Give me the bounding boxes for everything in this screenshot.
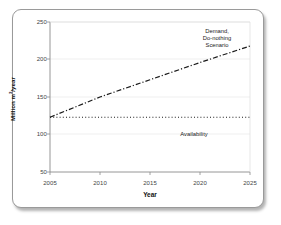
annotation-demand-line1: Demand, <box>186 28 248 35</box>
y-tick-label-250: 250 <box>25 19 47 25</box>
annotation-availability-line1: Availability <box>163 131 225 138</box>
x-tick-label-2010: 2010 <box>85 180 115 186</box>
y-tick-label-50: 50 <box>25 169 47 175</box>
y-tick-label-150: 150 <box>25 94 47 100</box>
annotation-demand-line3: Scenario <box>186 42 248 49</box>
x-tick-label-2025: 2025 <box>235 180 265 186</box>
x-tick-label-2005: 2005 <box>35 180 65 186</box>
x-axis-title: Year <box>50 191 250 198</box>
y-tick-label-100: 100 <box>25 131 47 137</box>
y-axis-title-suffix: /year <box>9 77 16 91</box>
y-axis-title: Million m3/year <box>8 66 16 132</box>
figure-root: 250 200 150 100 50 2005 2010 2015 2020 2… <box>0 0 281 225</box>
annotation-demand-scenario: Demand, Do-nothing Scenario <box>186 28 248 49</box>
annotation-availability: Availability <box>163 131 225 138</box>
annotation-demand-line2: Do-nothing <box>186 35 248 42</box>
x-tick-label-2015: 2015 <box>135 180 165 186</box>
x-tick-label-2020: 2020 <box>185 180 215 186</box>
y-tick-label-200: 200 <box>25 56 47 62</box>
y-axis-title-prefix: Million m <box>9 94 16 121</box>
